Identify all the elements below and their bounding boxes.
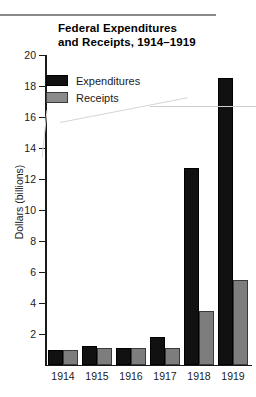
bar-expenditures-1917: [150, 337, 165, 365]
y-axis-title: Dollars (billions): [13, 142, 25, 262]
y-axis-tick: [39, 148, 45, 150]
legend-label-receipts: Receipts: [76, 92, 119, 104]
y-axis-tick-label: 16: [0, 112, 36, 122]
legend-swatch-expenditures-icon: [46, 75, 68, 86]
bar-receipts-1916: [131, 348, 146, 365]
plot-area: 20 18 16 14 12 10 8 6 4 2 Dollars (billi…: [0, 0, 256, 397]
bar-expenditures-1915: [82, 346, 97, 365]
legend-label-expenditures: Expenditures: [76, 75, 140, 87]
y-axis-tick-label: 20: [0, 50, 36, 60]
y-axis-tick: [39, 210, 45, 212]
y-axis-tick-label: 2: [0, 329, 36, 339]
y-axis-tick: [39, 55, 45, 57]
bar-receipts-1914: [63, 350, 78, 366]
y-axis-tick: [39, 86, 45, 88]
legend-swatch-receipts-icon: [46, 92, 68, 103]
y-axis-tick: [39, 179, 45, 181]
bar-receipts-1917: [165, 348, 180, 365]
bar-receipts-1918: [199, 311, 214, 365]
y-axis-tick: [39, 303, 45, 305]
bar-receipts-1919: [233, 280, 248, 365]
bar-expenditures-1919: [218, 78, 233, 365]
chart-figure: Federal Expenditures and Receipts, 1914–…: [0, 0, 256, 397]
y-axis-tick: [39, 334, 45, 336]
y-axis-tick: [39, 241, 45, 243]
bar-receipts-1915: [97, 348, 112, 365]
y-axis-tick: [39, 117, 45, 119]
y-axis-tick: [39, 272, 45, 274]
bar-expenditures-1914: [48, 350, 63, 366]
y-axis-tick-label: 4: [0, 298, 36, 308]
x-axis-tick-label-1919: 1919: [213, 370, 253, 382]
legend-item-receipts: Receipts: [46, 89, 140, 106]
bar-expenditures-1916: [116, 348, 131, 365]
y-axis-tick-label: 18: [0, 81, 36, 91]
chart-legend: Expenditures Receipts: [46, 72, 140, 106]
legend-item-expenditures: Expenditures: [46, 72, 140, 89]
bar-expenditures-1918: [184, 168, 199, 365]
y-axis-tick-label: 6: [0, 267, 36, 277]
